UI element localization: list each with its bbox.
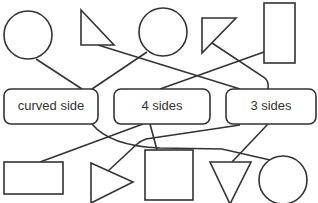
category-label-3-sides: 3 sides — [250, 98, 292, 113]
bottom-triangle-down[interactable] — [210, 162, 251, 203]
category-curved-side[interactable]: curved side — [4, 89, 98, 124]
bottom-circle[interactable] — [259, 156, 307, 203]
category-label-4-sides: 4 sides — [141, 98, 183, 113]
connector-top-rectangle-to-four — [160, 52, 264, 89]
top-circle-1[interactable] — [4, 11, 52, 59]
bottom-square[interactable] — [145, 150, 193, 200]
category-4-sides[interactable]: 4 sides — [114, 89, 210, 124]
diagram-canvas: curved side 4 sides 3 sides — [0, 0, 318, 203]
top-shapes — [4, 3, 295, 63]
connector-three-to-bottom-triangle-down — [232, 124, 268, 162]
top-circle-2[interactable] — [139, 8, 187, 56]
bottom-triangle-right[interactable] — [91, 163, 133, 203]
category-label-curved-side: curved side — [18, 98, 84, 113]
bottom-rectangle[interactable] — [4, 162, 63, 194]
top-rectangle[interactable] — [264, 3, 295, 63]
top-triangle-1[interactable] — [81, 10, 114, 45]
connector-four-to-bottom-rectangle — [40, 124, 143, 162]
category-labels: curved side 4 sides 3 sides — [4, 89, 316, 124]
category-3-sides[interactable]: 3 sides — [226, 89, 316, 124]
connector-top-circle-1-to-curved — [36, 59, 82, 89]
